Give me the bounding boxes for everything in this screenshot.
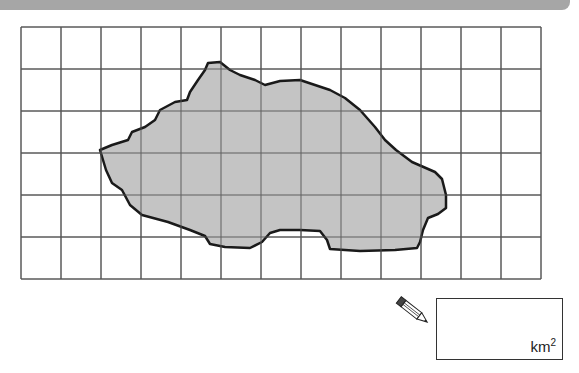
grid-diagram	[0, 0, 579, 290]
pencil-icon	[393, 293, 433, 329]
shape-region	[100, 62, 446, 251]
answer-box[interactable]: km2	[436, 298, 563, 360]
unit-label: km2	[530, 337, 556, 355]
